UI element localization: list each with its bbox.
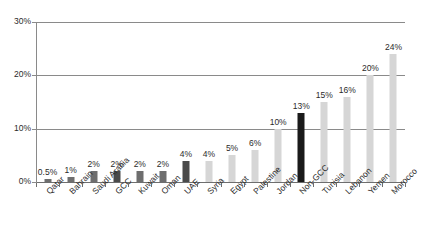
y-tick-label: 30% [3, 17, 31, 26]
bar-slot: 24% [382, 22, 405, 182]
bar-yemen[interactable] [367, 75, 374, 182]
bar-egypt[interactable] [229, 155, 236, 182]
bar-slot: 15% [313, 22, 336, 182]
bar-morocco[interactable] [390, 54, 397, 182]
bar-palestine[interactable] [252, 150, 259, 182]
x-tick-mark [290, 183, 291, 187]
y-tick-label: 0% [3, 177, 31, 186]
bar-value-label: 16% [339, 86, 356, 95]
bar-slot: 4% [174, 22, 197, 182]
bar-slot: 5% [221, 22, 244, 182]
bar-value-label: 1% [64, 166, 76, 175]
y-tick-mark [32, 22, 37, 23]
bars-layer: 0.5%1%2%2%2%2%4%4%5%6%10%13%15%16%20%24% [36, 22, 405, 182]
y-tick-mark [32, 129, 37, 130]
x-tick-mark [336, 183, 337, 187]
bar-slot: 16% [336, 22, 359, 182]
x-tick-mark [244, 183, 245, 187]
bar-uae[interactable] [182, 161, 189, 182]
x-tick-mark [359, 183, 360, 187]
bar-value-label: 20% [362, 64, 379, 73]
x-tick-mark [405, 183, 406, 187]
bar-non-gcc[interactable] [298, 113, 305, 182]
bar-slot: 2% [128, 22, 151, 182]
bar-slot: 2% [151, 22, 174, 182]
bar-value-label: 4% [180, 150, 192, 159]
y-tick-mark [32, 75, 37, 76]
bar-slot: 1% [59, 22, 82, 182]
x-tick-mark [382, 183, 383, 187]
y-axis-labels: 0%10%20%30% [0, 0, 31, 226]
bar-slot: 4% [197, 22, 220, 182]
bar-chart: 0%10%20%30% 0.5%1%2%2%2%2%4%4%5%6%10%13%… [0, 0, 432, 226]
x-tick-mark [197, 183, 198, 187]
x-tick-mark [151, 183, 152, 187]
bar-value-label: 2% [88, 160, 100, 169]
x-tick-mark [313, 183, 314, 187]
x-tick-mark [36, 183, 37, 187]
bar-value-label: 0.5% [38, 168, 57, 177]
x-tick-mark [221, 183, 222, 187]
x-tick-mark [128, 183, 129, 187]
bar-slot: 0.5% [36, 22, 59, 182]
bar-value-label: 13% [293, 102, 310, 111]
bar-slot: 6% [244, 22, 267, 182]
x-tick-mark [82, 183, 83, 187]
bar-lebanon[interactable] [344, 97, 351, 182]
bar-value-label: 24% [385, 43, 402, 52]
bar-value-label: 2% [134, 160, 146, 169]
bar-value-label: 5% [226, 144, 238, 153]
y-tick-label: 10% [3, 124, 31, 133]
bar-value-label: 6% [249, 139, 261, 148]
bar-value-label: 4% [203, 150, 215, 159]
bar-value-label: 15% [316, 91, 333, 100]
bar-value-label: 2% [157, 160, 169, 169]
x-tick-mark [174, 183, 175, 187]
bar-slot: 20% [359, 22, 382, 182]
x-tick-mark [59, 183, 60, 187]
bar-slot: 10% [267, 22, 290, 182]
bar-value-label: 10% [270, 118, 287, 127]
bar-kuwait[interactable] [136, 171, 143, 182]
x-tick-mark [105, 183, 106, 187]
bar-syria[interactable] [205, 161, 212, 182]
x-tick-mark [267, 183, 268, 187]
bar-slot: 13% [290, 22, 313, 182]
bar-slot: 2% [82, 22, 105, 182]
y-tick-label: 20% [3, 70, 31, 79]
